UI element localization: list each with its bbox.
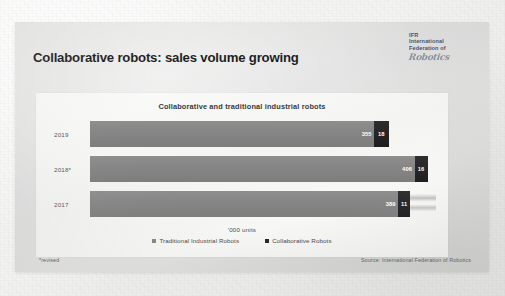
legend-label: Collaborative Robots — [272, 237, 331, 244]
bar-segment-collaborative: 18 — [374, 121, 388, 147]
screenshot-canvas: Collaborative robots: sales volume growi… — [0, 0, 505, 296]
bar-track: 389 11 — [90, 191, 438, 217]
bar-segment-traditional: 389 — [90, 191, 398, 217]
category-label: 2019 — [50, 131, 90, 138]
legend-swatch-icon — [265, 239, 269, 243]
legend-item-collaborative: Collaborative Robots — [265, 237, 331, 244]
category-label: 2018* — [50, 166, 90, 173]
bar-chart-plot-area: 2019 355 18 2018* — [50, 119, 438, 223]
bar-value-traditional: 355 — [362, 131, 372, 137]
footnote-revised: *revised — [39, 257, 59, 263]
bar-segment-collaborative: 11 — [398, 191, 410, 217]
bar-track: 355 18 — [90, 121, 438, 147]
logo-line-federation: Federation of — [409, 45, 475, 51]
legend-swatch-icon — [152, 239, 156, 243]
bar-value-collaborative: 11 — [398, 201, 410, 207]
bar-row: 2017 389 11 — [50, 191, 438, 217]
stacked-bar: 406 16 — [90, 156, 428, 182]
bar-value-collaborative: 18 — [374, 131, 388, 137]
legend-label: Traditional Industrial Robots — [159, 237, 239, 244]
legend-item-traditional: Traditional Industrial Robots — [152, 237, 239, 244]
bar-value-traditional: 406 — [402, 166, 412, 172]
category-label: 2017 — [50, 201, 90, 208]
chart-legend: Traditional Industrial Robots Collaborat… — [36, 237, 448, 244]
slide-title: Collaborative robots: sales volume growi… — [33, 50, 299, 65]
bar-value-collaborative: 16 — [415, 166, 428, 172]
ifr-logo: IFR International Federation of Robotics — [409, 32, 475, 62]
chart-panel: Collaborative and traditional industrial… — [36, 93, 448, 257]
bar-segment-traditional: 406 — [90, 156, 415, 182]
bar-row: 2018* 406 16 — [50, 156, 438, 182]
bar-segment-traditional: 355 — [90, 121, 374, 147]
bar-segment-collaborative: 16 — [415, 156, 428, 182]
presentation-slide: Collaborative robots: sales volume growi… — [15, 22, 489, 272]
bar-track: 406 16 — [90, 156, 438, 182]
bar-row: 2019 355 18 — [50, 121, 438, 147]
bar-value-traditional: 389 — [386, 201, 396, 207]
units-axis-label: '000 units — [36, 226, 448, 233]
logo-script-robotics: Robotics — [408, 52, 475, 62]
source-note: Source: International Federation of Robo… — [361, 257, 471, 263]
chart-title: Collaborative and traditional industrial… — [36, 102, 448, 111]
scan-smear-artifact — [410, 194, 436, 213]
stacked-bar: 389 11 — [90, 191, 410, 217]
stacked-bar: 355 18 — [90, 121, 389, 147]
